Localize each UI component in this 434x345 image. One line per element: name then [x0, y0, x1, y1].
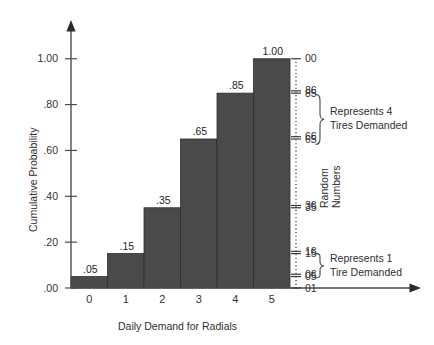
brace-represents-4: [316, 95, 324, 145]
bar-2: [144, 208, 181, 288]
annotation-represents-4-tires: Represents 4Tires Demanded: [330, 105, 407, 133]
x-tick-label-4: 4: [221, 293, 249, 306]
random-tick-label-65: 65: [305, 133, 317, 145]
y-tick-label-0.60: .60: [14, 144, 58, 156]
random-tick-label-00: 00: [305, 52, 317, 64]
bar-5: [254, 59, 291, 288]
bar-label-5: 1.00: [255, 45, 291, 57]
annotation-represents-4-line2: Tires Demanded: [330, 119, 407, 131]
x-tick-label-1: 1: [112, 293, 140, 306]
random-number-axis: [291, 59, 301, 289]
bar-4: [217, 93, 254, 288]
bar-series: [71, 59, 290, 288]
annotation-represents-1-tire: Represents 1Tire Demanded: [330, 252, 402, 280]
y-axis: [66, 20, 75, 288]
bar-label-0: .05: [74, 263, 106, 275]
bar-label-4: .85: [220, 79, 252, 91]
bar-0: [71, 277, 108, 288]
cumulative-probability-chart: Cumulative Probability 1.00 .80 .60 .40 …: [0, 0, 434, 345]
x-tick-label-3: 3: [185, 293, 213, 306]
x-axis-title: Daily Demand for Radials: [118, 320, 237, 332]
random-numbers-axis-title-line2: Numbers: [330, 165, 342, 208]
brace-represents-1: [316, 254, 324, 278]
random-tick-label-15: 15: [305, 247, 317, 259]
x-tick-label-2: 2: [148, 293, 176, 306]
bar-label-3: .65: [184, 125, 216, 137]
y-tick-label-0.00: .00: [14, 282, 58, 294]
annotation-represents-1-line1: Represents 1: [330, 252, 392, 264]
annotation-represents-4-line1: Represents 4: [330, 105, 392, 117]
random-numbers-axis-title-line1: Random: [318, 168, 330, 208]
random-tick-label-85: 85: [305, 87, 317, 99]
bar-1: [108, 254, 145, 288]
y-tick-label-0.40: .40: [14, 190, 58, 202]
bar-3: [181, 139, 218, 288]
y-tick-label-0.80: .80: [14, 98, 58, 110]
x-tick-label-0: 0: [75, 293, 103, 306]
bar-label-1: .15: [111, 240, 143, 252]
y-tick-label-0.20: .20: [14, 236, 58, 248]
annotation-represents-1-line2: Tire Demanded: [330, 266, 402, 278]
x-tick-label-5: 5: [258, 293, 286, 306]
y-tick-label-1.00: 1.00: [14, 52, 58, 64]
bar-label-2: .35: [147, 194, 179, 206]
chart-canvas: [0, 0, 434, 345]
random-tick-label-35: 35: [305, 201, 317, 213]
random-tick-label-01: 01: [305, 282, 317, 294]
